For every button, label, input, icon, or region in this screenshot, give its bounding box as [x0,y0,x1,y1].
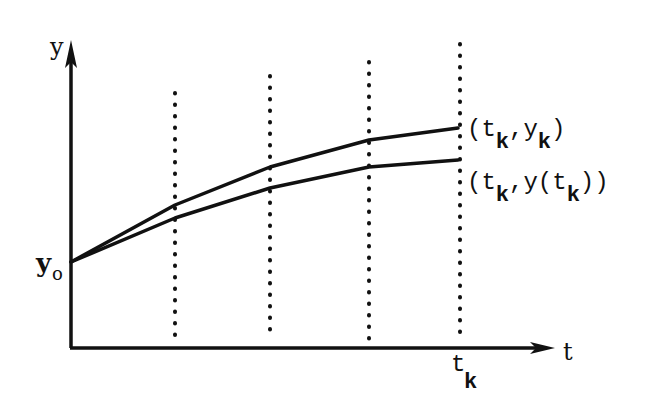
time-step-lines [175,44,460,340]
t-axis-label: t [563,338,573,366]
approximation-curve [71,128,458,262]
exact-end-label: (tk,y(tk)) [467,169,609,208]
svg-text:(tk,yk): (tk,yk) [467,116,565,155]
svg-text:k: k [464,370,477,395]
diagram-canvas: y t y o t k (tk,yk) (tk,y(tk)) [0,0,657,408]
exact-solution-curve [71,160,458,262]
approx-end-label: (tk,yk) [467,116,565,155]
svg-text:y: y [35,248,52,278]
svg-text:o: o [52,263,63,284]
axes [65,40,555,354]
svg-text:(tk,y(tk)): (tk,y(tk)) [467,169,609,208]
y-axis-label: y [49,33,64,61]
tk-label: t k [451,351,477,395]
y0-label: y o [35,248,63,284]
